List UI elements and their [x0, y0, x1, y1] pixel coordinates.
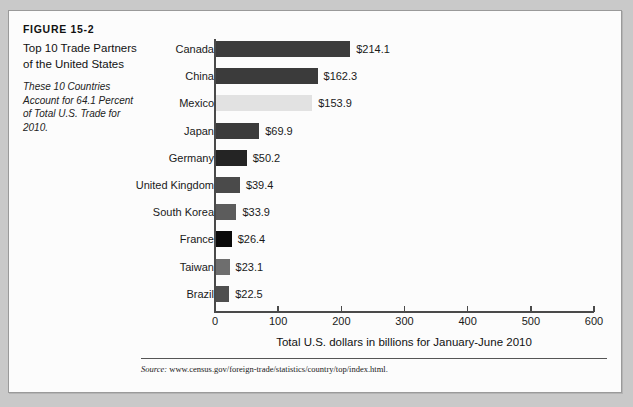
- x-axis-title: Total U.S. dollars in billions for Janua…: [214, 336, 594, 348]
- bar-category-label: Taiwan: [64, 257, 214, 277]
- bar-chart-plot-area: Canada$214.1China$162.3Mexico$153.9Japan…: [9, 11, 623, 394]
- x-tick-mark: [341, 306, 342, 312]
- bar-category-label: Mexico: [64, 93, 214, 113]
- bar-category-label: France: [64, 229, 214, 249]
- bar: [215, 68, 318, 84]
- x-tick-mark: [467, 306, 468, 312]
- x-tick-mark: [404, 306, 405, 312]
- bar-category-label: United Kingdom: [64, 175, 214, 195]
- bar-value-label: $153.9: [318, 93, 352, 113]
- x-tick-mark: [593, 306, 594, 312]
- bar: [215, 204, 236, 220]
- bar-row: Taiwan$23.1: [9, 257, 623, 277]
- x-tick-label: 400: [458, 315, 476, 327]
- x-tick-label: 0: [212, 315, 218, 327]
- bar-value-label: $39.4: [246, 175, 274, 195]
- source-divider: [141, 358, 607, 359]
- bar-value-label: $33.9: [242, 202, 270, 222]
- bar-row: United Kingdom$39.4: [9, 175, 623, 195]
- x-tick-mark: [530, 306, 531, 312]
- bar-row: Canada$214.1: [9, 39, 623, 59]
- bar-value-label: $22.5: [235, 284, 263, 304]
- x-tick-mark: [277, 306, 278, 312]
- source-note: Source: www.census.gov/foreign-trade/sta…: [141, 364, 388, 374]
- x-tick-label: 300: [395, 315, 413, 327]
- x-tick-mark: [214, 306, 215, 312]
- bar-value-label: $23.1: [236, 257, 264, 277]
- bar-value-label: $69.9: [265, 121, 293, 141]
- bar-value-label: $50.2: [253, 148, 281, 168]
- bar: [215, 231, 232, 247]
- y-axis-line: [214, 39, 216, 311]
- bar-category-label: Canada: [64, 39, 214, 59]
- source-label: Source:: [141, 364, 167, 374]
- bar-value-label: $162.3: [324, 66, 358, 86]
- bar-category-label: South Korea: [64, 202, 214, 222]
- x-tick-label: 600: [585, 315, 603, 327]
- bar: [215, 177, 240, 193]
- x-tick-label: 500: [522, 315, 540, 327]
- bar-value-label: $214.1: [356, 39, 390, 59]
- bar-category-label: Brazil: [64, 284, 214, 304]
- bar-row: Brazil$22.5: [9, 284, 623, 304]
- bar-value-label: $26.4: [238, 229, 266, 249]
- bar-row: China$162.3: [9, 66, 623, 86]
- bar-category-label: Japan: [64, 121, 214, 141]
- bar-row: South Korea$33.9: [9, 202, 623, 222]
- bar: [215, 259, 230, 275]
- bar-category-label: China: [64, 66, 214, 86]
- bar-row: Japan$69.9: [9, 121, 623, 141]
- bar: [215, 150, 247, 166]
- x-tick-label: 100: [269, 315, 287, 327]
- bar: [215, 95, 312, 111]
- source-url: www.census.gov/foreign-trade/statistics/…: [169, 364, 388, 374]
- bar-row: France$26.4: [9, 229, 623, 249]
- bar: [215, 41, 350, 57]
- bar-row: Mexico$153.9: [9, 93, 623, 113]
- bar: [215, 286, 229, 302]
- figure-frame: FIGURE 15-2 Top 10 Trade Partners of the…: [8, 10, 622, 393]
- x-tick-label: 200: [332, 315, 350, 327]
- bar-category-label: Germany: [64, 148, 214, 168]
- bar: [215, 123, 259, 139]
- bar-row: Germany$50.2: [9, 148, 623, 168]
